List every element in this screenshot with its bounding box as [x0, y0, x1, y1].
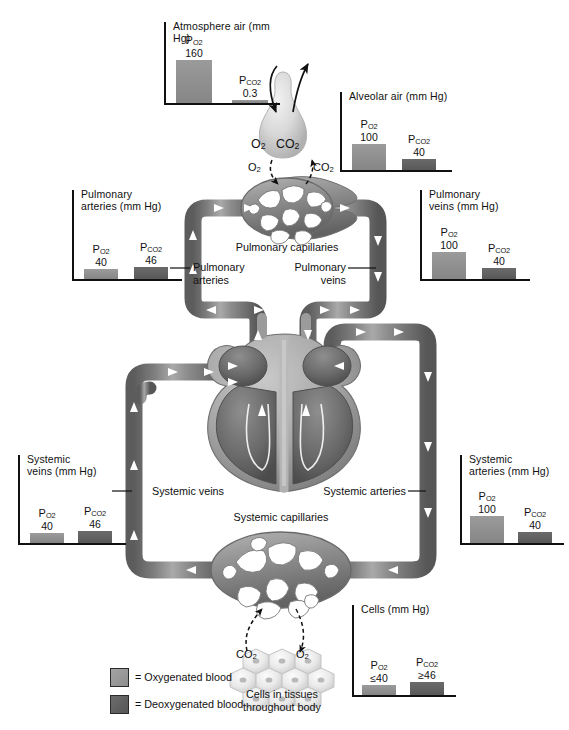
chart-x-axis [340, 170, 452, 172]
bar-value: 40 [39, 521, 56, 532]
bar-group: PCO2 40 [518, 532, 552, 543]
bar-po2 [470, 516, 504, 543]
bar-label: PCO2 0.3 [239, 75, 261, 100]
label-systemic-veins: Systemic veins [152, 485, 262, 498]
bar-group: PO2 100 [432, 252, 466, 279]
bar-pco2 [78, 531, 112, 543]
lung-co2-diffusion-label: CO2 [313, 161, 334, 174]
bar-po2 [30, 533, 64, 543]
legend-label: = Deoxygenated blood [135, 698, 243, 710]
bar-group: PCO2 ≥46 [410, 682, 444, 695]
chart-x-axis [460, 543, 564, 545]
bar-value: 100 [360, 132, 378, 143]
bar-label: PO2 100 [440, 227, 458, 252]
bar-value: 100 [440, 240, 458, 251]
bar-pco2 [410, 682, 444, 695]
legend: = Oxygenated blood = Deoxygenated blood [110, 666, 243, 720]
diagram-canvas: Atmosphere air (mm Hg) PO2 160 PCO2 0.3 … [0, 0, 569, 730]
bar-value: 0.3 [239, 88, 261, 99]
chart-systemic-veins: Systemic veins (mm Hg) PO2 40 PCO2 46 [18, 455, 126, 545]
label-pulmonary-veins: Pulmonary veins [268, 261, 346, 286]
label-pulmonary-capillaries: Pulmonary capillaries [207, 241, 367, 254]
bar-group: PO2 ≤40 [362, 685, 396, 695]
bar-pco2 [402, 159, 436, 170]
bar-value: 100 [478, 504, 496, 515]
bar-value: 40 [488, 256, 510, 267]
chart-x-axis [352, 695, 456, 697]
legend-item-deoxygenated: = Deoxygenated blood [110, 693, 243, 715]
bar-group: PCO2 40 [482, 268, 516, 279]
bar-po2 [176, 60, 212, 103]
bar-value: 40 [408, 147, 430, 158]
bar-po2 [352, 144, 386, 170]
chart-pulmonary-arteries: Pulmonary arteries (mm Hg) PO2 40 PCO2 4… [72, 190, 182, 281]
bar-label: PCO2 46 [84, 506, 106, 531]
bar-label: PCO2 46 [140, 242, 162, 267]
bar-group: PO2 40 [84, 269, 118, 279]
chart-atmosphere-air: Atmosphere air (mm Hg) PO2 160 PCO2 0.3 [164, 22, 280, 105]
legend-item-oxygenated: = Oxygenated blood [110, 666, 243, 688]
chart-x-axis [72, 279, 182, 281]
bar-po2 [432, 252, 466, 279]
bar-value: 160 [185, 48, 203, 59]
systemic-capillary-bed [211, 532, 351, 619]
bar-group: PCO2 46 [78, 531, 112, 543]
bar-pco2 [482, 268, 516, 279]
tissue-co2-diffusion-label: CO2 [236, 648, 257, 661]
bar-po2 [84, 269, 118, 279]
chart-x-axis [164, 103, 280, 105]
bar-pco2 [518, 532, 552, 543]
bar-label: PCO2 40 [488, 243, 510, 268]
bar-label: PO2 160 [185, 35, 203, 60]
chart-x-axis [420, 279, 530, 281]
bar-value: ≤40 [370, 673, 387, 684]
bar-label: PO2 100 [478, 491, 496, 516]
alveolus-o2-label: O2 [251, 137, 265, 151]
bar-group: PO2 100 [352, 144, 386, 170]
label-systemic-capillaries: Systemic capillaries [201, 511, 361, 524]
circulatory-artwork [0, 0, 569, 730]
bar-group: PO2 40 [30, 533, 64, 543]
bar-label: PCO2 ≥46 [416, 657, 438, 682]
label-pulmonary-arteries: Pulmonary arteries [193, 261, 279, 286]
bar-po2 [362, 685, 396, 695]
bar-group: PCO2 0.3 [232, 100, 268, 103]
bar-value: ≥46 [416, 670, 438, 681]
chart-cells: Cells (mm Hg) PO2 ≤40 PCO2 ≥46 [352, 605, 456, 697]
label-systemic-arteries: Systemic arteries [294, 485, 406, 498]
bar-value: 46 [84, 519, 106, 530]
lung-o2-diffusion-label: O2 [248, 161, 261, 174]
bar-label: PO2 ≤40 [370, 660, 387, 685]
bar-group: PCO2 40 [402, 159, 436, 170]
bar-group: PO2 100 [470, 516, 504, 543]
legend-label: = Oxygenated blood [135, 671, 232, 683]
alveolus-co2-label: CO2 [276, 137, 299, 151]
oxygenated-swatch-icon [110, 668, 129, 687]
bar-label: PCO2 40 [524, 507, 546, 532]
tissue-o2-diffusion-label: O2 [296, 648, 309, 661]
chart-alveolar-air: Alveolar air (mm Hg) PO2 100 PCO2 40 [340, 92, 452, 172]
bar-label: PO2 40 [39, 508, 56, 533]
bar-pco2 [134, 267, 168, 279]
bar-value: 46 [140, 255, 162, 266]
chart-x-axis [18, 543, 126, 545]
bar-group: PO2 160 [176, 60, 212, 103]
chart-pulmonary-veins: Pulmonary veins (mm Hg) PO2 100 PCO2 40 [420, 190, 530, 281]
bar-group: PCO2 46 [134, 267, 168, 279]
bar-label: PO2 40 [93, 244, 110, 269]
bar-value: 40 [93, 257, 110, 268]
deoxygenated-swatch-icon [110, 695, 129, 714]
pulmonary-capillary-bed [241, 177, 357, 245]
chart-systemic-arteries: Systemic arteries (mm Hg) PO2 100 PCO2 4… [460, 455, 564, 545]
bar-label: PCO2 40 [408, 134, 430, 159]
bar-value: 40 [524, 520, 546, 531]
bar-pco2 [232, 100, 268, 103]
bar-label: PO2 100 [360, 119, 378, 144]
